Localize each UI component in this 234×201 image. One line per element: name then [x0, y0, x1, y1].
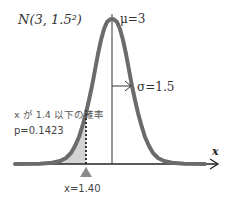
threshold-marker-triangle-icon — [80, 167, 92, 177]
distribution-title: N(3, 1.5²) — [17, 12, 82, 27]
mean-label: μ=3 — [120, 12, 146, 26]
annotation-line-2: p=0.1423 — [14, 125, 64, 136]
sigma-label: σ=1.5 — [137, 80, 174, 94]
normal-curve — [15, 19, 205, 164]
annotation-line-1: x が 1.4 以下の確率 — [14, 109, 104, 120]
threshold-label: x=1.40 — [64, 183, 101, 194]
x-axis-label: x — [211, 145, 219, 158]
normal-distribution-diagram: N(3, 1.5²) μ=3 σ=1.5 x x が 1.4 以下の確率 p=0… — [0, 0, 234, 201]
shaded-probability-area — [20, 113, 86, 164]
